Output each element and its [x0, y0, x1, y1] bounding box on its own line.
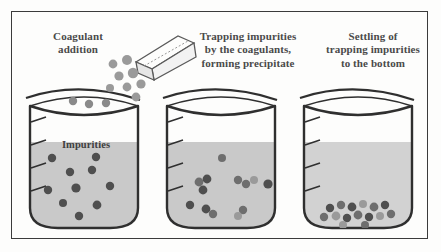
beaker-3-spout — [300, 89, 414, 100]
beaker-1-rim-back — [30, 97, 138, 106]
coagulation-diagram: Coagulant addition Trapping impurities b… — [0, 0, 441, 252]
beaker-2-rim-front — [167, 106, 275, 115]
beaker-1-spout — [26, 89, 140, 100]
beaker-1-rim-front — [30, 106, 138, 115]
beaker-1 — [26, 89, 140, 228]
label-trapping-impurities: Trapping impurities by the coagulants, f… — [184, 30, 312, 70]
beaker-2-rim-back — [167, 97, 275, 106]
beaker-3 — [300, 89, 414, 229]
beaker-2-spout — [163, 89, 277, 100]
label-coagulant-addition: Coagulant addition — [30, 30, 126, 57]
label-settling: Settling of trapping impurities to the b… — [312, 30, 434, 70]
beaker-1-liquid — [30, 142, 138, 228]
label-impurities: Impurities — [34, 139, 138, 152]
beaker-3-rim-back — [304, 97, 412, 106]
beaker-2 — [163, 89, 277, 228]
beaker-3-rim-front — [304, 106, 412, 115]
